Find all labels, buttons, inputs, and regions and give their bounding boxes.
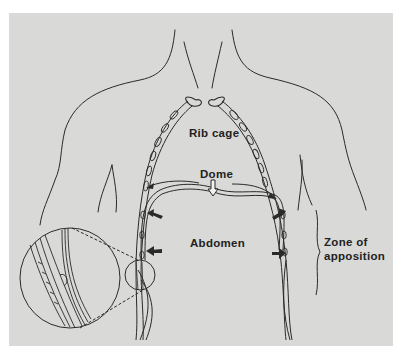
torso-outline-right [232,30,366,210]
magnified-inset [20,228,155,328]
label-rib-cage: Rib cage [189,127,239,140]
label-dome: Dome [200,168,233,181]
diagram-figure: Rib cage Dome Abdomen Zone of apposition [9,13,393,346]
label-zone-line2: apposition [324,250,385,263]
label-abdomen: Abdomen [190,237,245,250]
label-zone-line1: Zone of [324,236,368,249]
hollow-down-arrow [208,180,218,196]
zone-of-apposition-brace [316,210,320,295]
inward-arrows [146,208,286,259]
torso-outline-left [40,30,175,225]
